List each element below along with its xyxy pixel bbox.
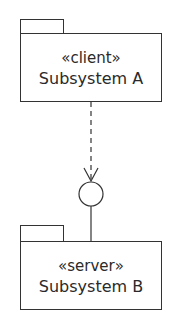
- package-b-stereotype: «server»: [20, 256, 162, 276]
- package-b-tab: [21, 226, 64, 242]
- package-a-stereotype: «client»: [20, 48, 162, 68]
- interface-circle: [79, 182, 103, 206]
- package-b-name: Subsystem B: [20, 277, 162, 297]
- package-a-tab: [21, 20, 64, 34]
- package-a-name: Subsystem A: [20, 69, 162, 89]
